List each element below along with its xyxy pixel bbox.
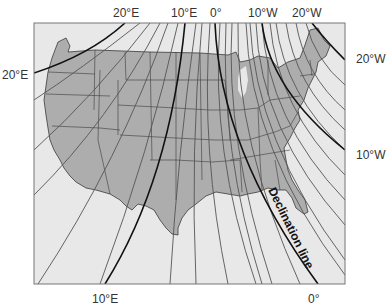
top-label-0: 0° [210,7,221,19]
top-label-20e: 20°E [113,7,139,19]
top-label-10e: 10°E [171,7,197,19]
bottom-label-0: 0° [308,293,319,305]
declination-map: Declination line [0,0,388,308]
bottom-label-10e: 10°E [92,293,118,305]
top-label-20w: 20°W [292,7,321,19]
right-label-10w: 10°W [356,149,385,161]
top-label-10w: 10°W [248,7,277,19]
left-label-20e: 20°E [2,69,28,81]
right-label-20w: 20°W [356,53,385,65]
